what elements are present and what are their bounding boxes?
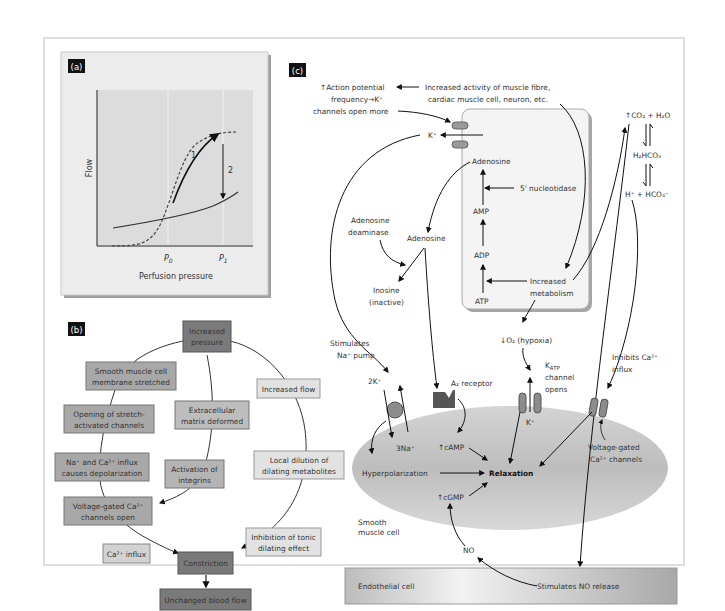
katp-channel-right	[534, 393, 541, 413]
figure-svg: (a) 1 2 Flow P0 P1 Perfusion pressure (b…	[0, 0, 725, 611]
adenosine-deaminase-2: deaminase	[348, 228, 389, 237]
adenosine-outside: Adenosine	[407, 234, 446, 243]
adp-label: ADP	[474, 251, 490, 260]
two-k-label: 2K⁺	[368, 377, 382, 386]
box-voltage-gated-open: Voltage-gated Ca²⁺ channels open	[64, 497, 152, 525]
inosine-2: (inactive)	[369, 298, 404, 307]
box-constriction: Constriction	[178, 552, 233, 574]
k-channel-top	[452, 122, 468, 129]
svg-text:Extracellular: Extracellular	[189, 406, 236, 415]
box-inhibition-tonic: Inhibition of tonic dilating effect	[246, 528, 321, 556]
box-increased-pressure: Increased pressure	[183, 321, 231, 352]
nucleotidase: 5' nucleotidase	[520, 184, 577, 193]
box-unchanged-blood-flow: Unchanged blood flow	[160, 589, 251, 610]
katp-channel: channel	[545, 373, 574, 382]
svg-text:integrins: integrins	[178, 476, 211, 485]
box-increased-flow: Increased flow	[257, 379, 320, 398]
svg-text:Ca²⁺ influx: Ca²⁺ influx	[107, 550, 147, 559]
stimulates-na-1: Stimulates	[330, 339, 370, 348]
box-extracellular-matrix: Extracellular matrix deformed	[175, 401, 249, 429]
k-channel-bottom	[452, 141, 468, 148]
inosine-1: Inosine	[373, 286, 400, 295]
smooth-muscle-ellipse	[352, 406, 668, 530]
y-axis-label: Flow	[85, 158, 94, 177]
svg-text:causes depolarization: causes depolarization	[62, 469, 143, 478]
katp-channel-left	[519, 393, 526, 413]
atp-label: ATP	[475, 297, 489, 306]
increased-activity-1: Increased activity of muscle fibre,	[425, 83, 550, 92]
adenosine-inside: Adenosine	[472, 157, 511, 166]
smooth-muscle-label-1: Smooth	[358, 518, 387, 527]
panel-b-label: (b)	[70, 325, 82, 335]
relaxation-label: Relaxation	[489, 469, 533, 478]
h2hco3-label: H₂HCO₃	[633, 151, 661, 160]
adenosine-deaminase-1: Adenosine	[351, 216, 390, 225]
box-local-dilution: Local dilution of dilating metabolites	[254, 451, 344, 479]
ap-freq-2: frequency→K⁺	[331, 95, 383, 104]
svg-text:Smooth muscle cell: Smooth muscle cell	[95, 367, 167, 376]
svg-text:Constriction: Constriction	[183, 559, 228, 568]
svg-text:Inhibition of tonic: Inhibition of tonic	[251, 533, 316, 542]
inhibits-ca-1: Inhibits Ca²⁺	[612, 353, 658, 362]
katp-opens: opens	[545, 385, 567, 394]
no-label: NO	[463, 546, 475, 555]
increased-activity-2: cardiac muscle cell, neuron, etc.	[428, 95, 548, 104]
box-opening-stretch-channels: Opening of stretch- activated channels	[64, 405, 154, 433]
camp-label: ↑cAMP	[438, 443, 465, 452]
box-smooth-muscle-stretched: Smooth muscle cell membrane stretched	[86, 362, 176, 390]
svg-text:Increased flow: Increased flow	[262, 385, 316, 394]
svg-text:dilating effect: dilating effect	[258, 544, 309, 553]
svg-text:Voltage-gated Ca²⁺: Voltage-gated Ca²⁺	[73, 502, 144, 511]
annotation-2: 2	[228, 166, 233, 175]
three-na-label: 3Na⁺	[396, 444, 415, 453]
svg-text:Increased: Increased	[189, 327, 225, 336]
stimulates-no-label: Stimulates NO release	[537, 582, 620, 591]
svg-text:Opening of stretch-: Opening of stretch-	[73, 410, 145, 419]
svg-text:matrix deformed: matrix deformed	[181, 417, 243, 426]
panel-a: (a) 1 2 Flow P0 P1 Perfusion pressure	[61, 52, 271, 298]
box-activation-integrins: Activation of integrins	[165, 460, 224, 488]
increased-metabolism-2: metabolism	[530, 289, 574, 298]
svg-text:pressure: pressure	[191, 338, 223, 347]
svg-text:channels open: channels open	[81, 513, 135, 522]
box-na-ca-influx: Na⁺ and Ca²⁺ influx causes depolarizatio…	[55, 453, 149, 481]
cgmp-label: ↑cGMP	[437, 493, 464, 502]
na-pump	[387, 402, 403, 418]
voltage-gated-2: Ca²⁺ channels	[590, 455, 642, 464]
ap-freq-3: channels open more	[313, 107, 389, 116]
o2-hypoxia-label: ↓O₂ (hypoxia)	[500, 336, 552, 345]
svg-text:membrane stretched: membrane stretched	[92, 378, 170, 387]
panel-a-label: (a)	[71, 62, 83, 72]
k-plus-top: K⁺	[428, 131, 437, 140]
x-axis-label: Perfusion pressure	[139, 272, 213, 281]
ap-freq-1: ↑Action potential	[320, 83, 385, 92]
h-hco3-label: H⁺ + HCO₃⁻	[625, 190, 669, 199]
co2-label: ↑CO₂ + H₂O	[625, 111, 671, 120]
hyperpolarization-label: Hyperpolarization	[362, 469, 428, 478]
increased-metabolism-1: Increased	[530, 277, 566, 286]
k-plus-membrane: K⁺	[526, 418, 535, 427]
a2-receptor-label: A₂ receptor	[451, 379, 494, 388]
figure-canvas: (a) 1 2 Flow P0 P1 Perfusion pressure (b…	[0, 0, 725, 611]
panel-c-label: (c)	[292, 66, 303, 76]
smooth-muscle-label-2: muscle cell	[358, 528, 399, 537]
box-ca-influx: Ca²⁺ influx	[103, 544, 150, 563]
svg-text:Na⁺ and Ca²⁺ influx: Na⁺ and Ca²⁺ influx	[66, 458, 139, 467]
svg-text:Unchanged blood flow: Unchanged blood flow	[164, 596, 246, 605]
stimulates-na-2: Na⁺ pump	[337, 351, 375, 360]
svg-text:Activation of: Activation of	[171, 465, 218, 474]
inhibits-ca-2: influx	[612, 365, 633, 374]
amp-label: AMP	[473, 207, 489, 216]
annotation-1: 1	[191, 151, 196, 160]
voltage-gated-1: Voltage-gated	[588, 443, 640, 452]
endothelial-label: Endothelial cell	[358, 582, 414, 591]
svg-text:activated channels: activated channels	[74, 421, 144, 430]
svg-text:Local dilution of: Local dilution of	[270, 456, 329, 465]
a2-receptor	[433, 390, 455, 408]
svg-text:dilating metabolites: dilating metabolites	[262, 467, 336, 476]
